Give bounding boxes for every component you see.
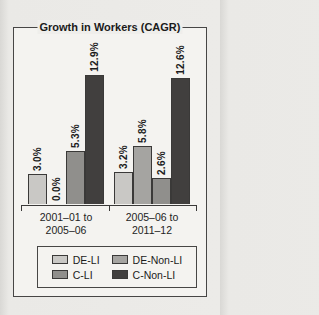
bar-c-non-li-group1 [85, 75, 104, 204]
bar-value-label-c-non-li-group2: 12.6% [175, 45, 186, 75]
legend-swatch-de-non-li [112, 255, 128, 264]
bar-c-li-group1 [66, 151, 85, 204]
bar-value-label-de-li-group2: 3.2% [118, 145, 129, 169]
category-label-period-2: 2005–06 to 2011–12 [106, 211, 198, 236]
bar-value-label-c-li-group1: 5.3% [70, 124, 81, 148]
legend-item-de-non-li: DE-Non-LI [112, 254, 183, 266]
bar-de-li-group1 [28, 174, 47, 204]
legend-item-c-li: C-LI [52, 269, 100, 281]
chart-frame: Growth in Workers (CAGR) 2001–01 to 2005… [13, 27, 207, 297]
category-label-period-1: 2001–01 to 2005–06 [20, 211, 112, 236]
category-label-line: 2005–06 [20, 224, 112, 237]
bar-value-label-c-non-li-group1: 12.9% [89, 42, 100, 72]
legend-swatch-c-non-li [112, 270, 128, 279]
legend-swatch-de-li [52, 255, 68, 264]
legend-label-c-li: C-LI [73, 269, 93, 281]
bar-de-non-li-group2 [133, 146, 152, 204]
bar-value-label-c-li-group2: 2.6% [156, 151, 167, 175]
legend-label-de-li: DE-LI [73, 254, 100, 266]
bar-value-label-de-non-li-group2: 5.8% [137, 119, 148, 143]
bar-value-label-de-non-li-group1: 0.0% [51, 177, 62, 201]
legend-item-c-non-li: C-Non-LI [112, 269, 183, 281]
category-label-line: 2001–01 to [20, 211, 112, 224]
legend-swatch-c-li [52, 270, 68, 279]
x-axis-line [21, 205, 197, 206]
bar-de-li-group2 [114, 172, 133, 204]
bar-c-non-li-group2 [171, 78, 190, 204]
legend-label-de-non-li: DE-Non-LI [133, 254, 183, 266]
bar-c-li-group2 [152, 178, 171, 204]
legend-item-de-li: DE-LI [52, 254, 100, 266]
category-label-line: 2011–12 [106, 224, 198, 237]
plot-area: 2001–01 to 2005–06 2005–06 to 2011–12 DE… [14, 28, 206, 296]
bar-value-label-de-li-group1: 3.0% [32, 147, 43, 171]
legend: DE-LIDE-Non-LIC-LIC-Non-LI [37, 246, 197, 288]
category-label-line: 2005–06 to [106, 211, 198, 224]
legend-label-c-non-li: C-Non-LI [133, 269, 176, 281]
